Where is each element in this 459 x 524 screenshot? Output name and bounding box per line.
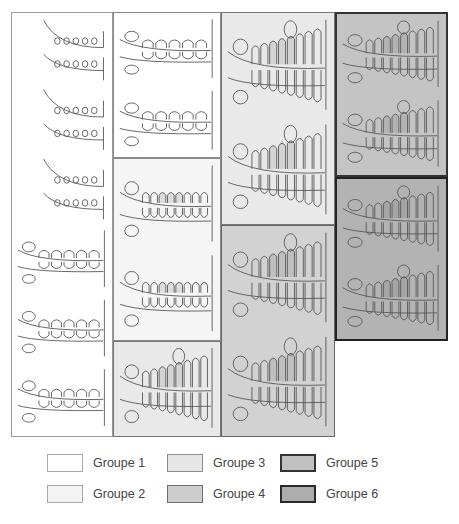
legend-swatch [47,454,83,472]
legend-swatch [167,454,203,472]
legend-item-groupe-1: Groupe 1 [47,454,145,472]
teeth-drawing-icon [114,13,220,157]
legend-item-groupe-6: Groupe 6 [280,485,378,503]
legend-item-groupe-3: Groupe 3 [167,454,265,472]
panel-groupe-1 [113,12,221,158]
teeth-drawing-icon [12,13,112,436]
teeth-drawing-icon [114,159,220,340]
legend-label: Groupe 4 [213,487,265,501]
legend-label: Groupe 6 [326,487,378,501]
panel-groupe-6 [335,177,448,341]
legend-swatch [280,454,316,472]
legend-item-groupe-4: Groupe 4 [167,485,265,503]
panel-groupe-1 [11,12,113,437]
legend-label: Groupe 1 [93,456,145,470]
legend-item-groupe-2: Groupe 2 [47,485,145,503]
teeth-drawing-icon [222,13,334,224]
legend-swatch [167,485,203,503]
legend-swatch [47,485,83,503]
teeth-drawing-icon [222,226,334,436]
teeth-drawing-icon [114,342,220,436]
teeth-drawing-icon [337,179,446,339]
panel-groupe-5 [335,12,448,177]
legend-label: Groupe 2 [93,487,145,501]
legend-label: Groupe 3 [213,456,265,470]
legend-swatch [280,485,316,503]
legend-label: Groupe 5 [326,456,378,470]
panel-groupe-2 [113,158,221,341]
legend-item-groupe-5: Groupe 5 [280,454,378,472]
teeth-drawing-icon [337,14,446,175]
panel-groupe-4 [221,225,335,437]
panel-groupe-3 [221,12,335,225]
panel-groupe-3 [113,341,221,437]
